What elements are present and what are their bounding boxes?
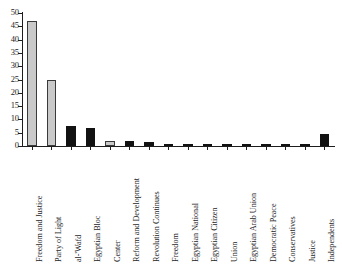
y-axis-tick-label: 40	[11, 34, 19, 45]
y-axis-tick-label: 15	[11, 100, 19, 111]
bar	[66, 126, 76, 146]
x-axis-category-label: Justice	[308, 240, 317, 262]
x-axis-tick	[227, 147, 228, 150]
x-axis-category-label: Egyptian National	[191, 203, 200, 262]
bar	[222, 144, 232, 146]
x-axis-tick	[90, 147, 91, 150]
bar	[300, 144, 310, 146]
bar	[125, 141, 135, 146]
x-axis-category-label: al-'Wafd	[74, 235, 83, 262]
x-axis-tick	[246, 147, 247, 150]
y-axis-tick-label: 45	[11, 20, 19, 31]
x-axis-tick	[32, 147, 33, 150]
x-axis-category-label: Egyptian Citizen	[210, 208, 219, 262]
bar	[281, 144, 291, 146]
bar	[86, 128, 96, 146]
x-axis-category-label: Conservatives	[288, 216, 297, 262]
bar	[105, 141, 115, 146]
x-axis-tick	[71, 147, 72, 150]
y-axis-tick-label: 0	[15, 140, 19, 151]
y-axis-tick-label: 35	[11, 47, 19, 58]
y-axis-tick-label: 50	[11, 7, 19, 18]
y-axis-tick-label: 10	[11, 113, 19, 124]
x-axis-tick	[207, 147, 208, 150]
y-axis-tick-label: 20	[11, 87, 19, 98]
x-axis-tick	[110, 147, 111, 150]
bar	[183, 144, 193, 146]
x-axis-tick	[305, 147, 306, 150]
bar	[47, 80, 57, 146]
plot-area	[22, 13, 334, 146]
bar	[164, 144, 174, 146]
x-axis-category-label: Union	[230, 242, 239, 262]
x-axis-category-label: Egyptian Arab Union	[249, 193, 258, 262]
x-axis-tick	[188, 147, 189, 150]
x-axis-category-label: Democratic Peace	[269, 203, 278, 262]
x-axis-line	[22, 146, 335, 147]
x-axis-category-label: Revolution Continues	[152, 191, 161, 262]
x-axis-tick	[324, 147, 325, 150]
x-axis-category-label: Reform and Development	[132, 178, 141, 262]
y-axis-tick-label: 5	[15, 127, 19, 138]
x-axis-tick	[149, 147, 150, 150]
bar	[261, 144, 271, 146]
x-axis-tick	[129, 147, 130, 150]
bar	[203, 144, 213, 146]
x-axis-tick	[51, 147, 52, 150]
x-axis-category-label: Party of Light	[54, 217, 63, 262]
x-axis-category-label: Independents	[327, 219, 336, 262]
x-axis-category-label: Freedom	[171, 233, 180, 262]
x-axis-tick	[168, 147, 169, 150]
x-axis-category-label: Center	[113, 240, 122, 262]
x-axis-category-label: Egyptian Bloc	[93, 216, 102, 262]
bar	[27, 21, 37, 146]
x-axis-category-label: Freedom and Justice	[35, 196, 44, 262]
x-axis-tick	[266, 147, 267, 150]
bar	[242, 144, 252, 146]
bar-chart: Freedom and JusticeParty of Lightal-'Waf…	[0, 0, 342, 265]
bar	[144, 142, 154, 146]
y-axis-tick-label: 25	[11, 74, 19, 85]
x-axis-tick	[285, 147, 286, 150]
bar	[320, 134, 330, 146]
x-axis-labels: Freedom and JusticeParty of Lightal-'Waf…	[22, 150, 334, 265]
y-axis-tick-label: 30	[11, 60, 19, 71]
